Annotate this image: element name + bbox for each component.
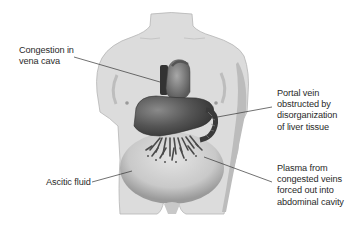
label-line: Plasma from <box>277 163 344 174</box>
label-line: obstructed by <box>277 99 337 110</box>
nipple-right <box>214 101 218 105</box>
heart <box>166 60 190 100</box>
label-ascitic-fluid: Ascitic fluid <box>46 177 91 188</box>
label-portal-vein: Portal vein obstructed by disorganizatio… <box>277 88 337 133</box>
label-line: vena cava <box>19 56 74 67</box>
pubic-region <box>164 202 180 214</box>
label-plasma: Plasma from congested veins forced out i… <box>277 163 344 208</box>
label-line: congested veins <box>277 174 344 185</box>
label-line: of liver tissue <box>277 122 337 133</box>
label-line: Ascitic fluid <box>46 177 91 188</box>
label-line: abdominal cavity <box>277 197 344 208</box>
ascitic-fluid-region <box>120 132 224 204</box>
label-vena-cava: Congestion in vena cava <box>19 45 74 67</box>
label-line: forced out into <box>277 185 344 196</box>
label-line: disorganization <box>277 110 337 121</box>
label-line: Congestion in <box>19 45 74 56</box>
ascites-diagram: Congestion in vena cava Portal vein obst… <box>0 0 362 243</box>
label-line: Portal vein <box>277 88 337 99</box>
nipple-left <box>125 101 129 105</box>
